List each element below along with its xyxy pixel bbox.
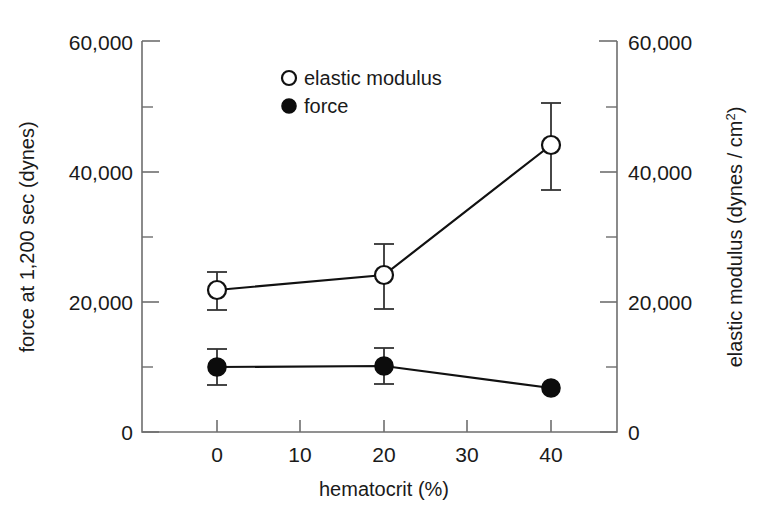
left-tick-label-40000: 40,000 bbox=[69, 161, 133, 184]
datapoint-force-0[interactable] bbox=[208, 358, 226, 376]
legend-label-elastic-modulus: elastic modulus bbox=[304, 67, 442, 89]
y2-axis-title-group: elastic modulus (dynes / cm2) bbox=[723, 107, 746, 368]
legend-marker-filled-circle-icon bbox=[282, 99, 296, 113]
left-tick-label-0: 0 bbox=[121, 421, 133, 444]
y-axis-title: force at 1,200 sec (dynes) bbox=[16, 121, 38, 352]
datapoint-elastic-modulus-20[interactable] bbox=[375, 266, 393, 284]
legend-item-force[interactable]: force bbox=[282, 95, 348, 117]
x-tick-label-20: 20 bbox=[372, 443, 395, 466]
datapoint-force-40[interactable] bbox=[542, 379, 560, 397]
right-tick-label-0: 0 bbox=[628, 421, 640, 444]
legend: elastic modulus force bbox=[282, 67, 442, 117]
left-tick-label-20000: 20,000 bbox=[69, 291, 133, 314]
series-force bbox=[207, 348, 560, 397]
left-tick-label-60000: 60,000 bbox=[69, 31, 133, 54]
chart-canvas: 0 20,000 40,000 60,000 0 20,000 40,000 6… bbox=[0, 0, 767, 510]
right-tick-label-20000: 20,000 bbox=[628, 291, 692, 314]
x-tick-label-0: 0 bbox=[211, 443, 223, 466]
right-axis-tick-labels: 0 20,000 40,000 60,000 bbox=[628, 31, 692, 444]
series-elastic-modulus bbox=[207, 103, 561, 310]
datapoint-elastic-modulus-0[interactable] bbox=[208, 281, 226, 299]
y2-axis-title-main: elastic modulus (dynes / cm bbox=[724, 121, 746, 368]
legend-marker-open-circle-icon bbox=[282, 71, 296, 85]
chart-page: 0 20,000 40,000 60,000 0 20,000 40,000 6… bbox=[0, 0, 767, 510]
x-axis-tick-labels: 0 10 20 30 40 bbox=[211, 443, 563, 466]
x-axis-title: hematocrit (%) bbox=[319, 478, 449, 500]
y2-axis-title-superscript: 2 bbox=[723, 113, 738, 120]
legend-item-elastic-modulus[interactable]: elastic modulus bbox=[282, 67, 442, 89]
right-tick-label-40000: 40,000 bbox=[628, 161, 692, 184]
right-axis-ticks bbox=[600, 107, 617, 432]
datapoint-elastic-modulus-40[interactable] bbox=[542, 136, 560, 154]
x-tick-label-30: 30 bbox=[455, 443, 478, 466]
left-axis-ticks bbox=[142, 107, 159, 432]
y2-axis-title: elastic modulus (dynes / cm2) bbox=[723, 107, 746, 368]
legend-label-force: force bbox=[304, 95, 348, 117]
right-tick-label-60000: 60,000 bbox=[628, 31, 692, 54]
y2-axis-title-tail: ) bbox=[724, 107, 746, 114]
x-tick-label-10: 10 bbox=[288, 443, 311, 466]
left-axis-tick-labels: 0 20,000 40,000 60,000 bbox=[69, 31, 133, 444]
x-axis-ticks bbox=[217, 420, 551, 432]
datapoint-force-20[interactable] bbox=[375, 357, 393, 375]
x-tick-label-40: 40 bbox=[539, 443, 562, 466]
